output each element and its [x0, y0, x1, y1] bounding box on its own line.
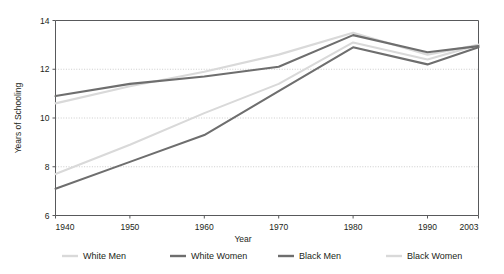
- x-tick-label: 1980: [344, 222, 363, 232]
- legend-label-black-women: Black Women: [407, 251, 462, 261]
- y-tick-label: 10: [40, 113, 50, 123]
- line-chart: 68101214 1940195019601970198019902003 Wh…: [0, 0, 504, 274]
- legend-label-white-men: White Men: [83, 251, 126, 261]
- x-tick-label: 1960: [195, 222, 214, 232]
- x-tick-label: 1990: [418, 222, 437, 232]
- y-tick-label: 8: [45, 162, 50, 172]
- chart-background: [0, 0, 504, 274]
- x-axis-title: Year: [234, 234, 251, 244]
- y-tick-label: 12: [40, 64, 50, 74]
- y-tick-label: 6: [45, 211, 50, 221]
- x-tick-label: 1970: [269, 222, 288, 232]
- x-tick-label: 1940: [56, 222, 75, 232]
- y-axis-title: Years of Schooling: [13, 82, 23, 153]
- legend-label-white-women: White Women: [191, 251, 247, 261]
- chart-container: 68101214 1940195019601970198019902003 Wh…: [0, 0, 504, 274]
- y-tick-label: 14: [40, 16, 50, 26]
- x-tick-label: 1950: [120, 222, 139, 232]
- legend-label-black-men: Black Men: [299, 251, 341, 261]
- x-tick-label: 2003: [460, 222, 479, 232]
